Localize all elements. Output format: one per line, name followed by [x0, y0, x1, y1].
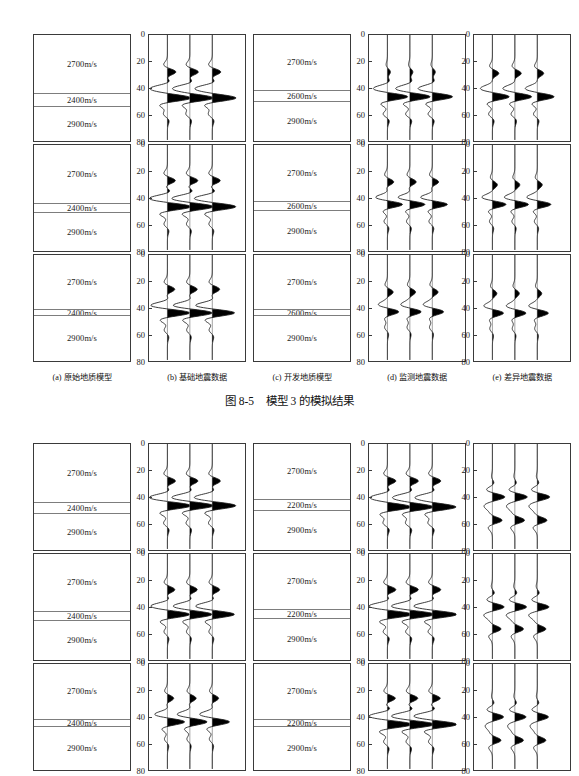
y-axis-tick-label: 20 [354, 167, 365, 176]
y-axis-tick-mark [368, 281, 372, 282]
trace-wiggle-line [172, 145, 213, 250]
y-axis-tick-mark [148, 690, 152, 691]
y-axis-tick-label: 20 [134, 167, 145, 176]
subcaption-row: (a) 原始地质模型(b) 基础地震数据(c) 开发地质模型(d) 监测地震数据… [0, 371, 579, 385]
velocity-label: 2900m/s [67, 744, 97, 753]
trace-positive-fill [167, 177, 190, 237]
y-axis-tick-label: 60 [459, 520, 470, 529]
y-axis-tick-label: 20 [134, 277, 145, 286]
y-axis-tick-mark [473, 171, 477, 172]
y-axis-tick-mark [368, 580, 372, 581]
y-axis-tick-label: 40 [354, 603, 365, 612]
lower-layer: 2900m/s [254, 316, 350, 361]
trace-wiggle-line [480, 35, 509, 140]
lower-layer: 2900m/s [34, 621, 130, 660]
subcaption-b: (b) 基础地震数据 [136, 371, 258, 385]
wiggle-trace-group [474, 444, 569, 549]
y-axis-tick-mark [473, 744, 477, 745]
y-axis-tick-mark [148, 580, 152, 581]
trace-positive-fill [432, 586, 456, 646]
y-axis-tick-mark [368, 335, 372, 336]
velocity-label: 2200m/s [287, 719, 317, 726]
trace-wiggle-line [172, 444, 213, 549]
reservoir-layer: 2600m/s [254, 201, 350, 211]
velocity-model-panel-group-top-r1-a: 2700m/s2400m/s2900m/s [33, 34, 131, 142]
y-axis-tick-mark [148, 607, 152, 608]
trace-wiggle-line [401, 255, 421, 360]
velocity-label: 2900m/s [67, 528, 97, 537]
y-axis-tick-label: 60 [134, 221, 145, 230]
trace-wiggle-line [391, 664, 433, 769]
y-axis-tick-label: 20 [354, 57, 365, 66]
upper-layer: 2700m/s [34, 255, 130, 309]
y-axis-tick-label: 0 [354, 549, 365, 558]
wiggle-trace-group [149, 35, 244, 140]
seismic-panel-group-bottom-r2-e: 020406080 [459, 553, 571, 661]
velocity-label: 2900m/s [67, 228, 97, 237]
y-axis-tick-label: 60 [354, 221, 365, 230]
wiggle-trace-group [149, 554, 244, 659]
reservoir-layer: 2200m/s [254, 719, 350, 726]
trace-wiggle-line [378, 255, 398, 360]
y-axis-tick-mark [148, 198, 152, 199]
trace-wiggle-line [393, 444, 434, 549]
seismic-panel-group-bottom-r2-d: 020406080 [354, 553, 466, 661]
y-axis-tick-label: 20 [459, 167, 470, 176]
trace-wiggle-line [194, 444, 235, 549]
lower-layer: 2900m/s [254, 211, 350, 251]
upper-layer: 2700m/s [34, 35, 130, 93]
y-axis-tick-mark [148, 61, 152, 62]
y-axis-tick-label: 20 [134, 576, 145, 585]
seismic-plot-area [368, 553, 466, 661]
subcaption-e: (e) 差异地震数据 [461, 371, 579, 385]
trace-wiggle-line [173, 554, 212, 659]
trace-wiggle-line [482, 145, 506, 250]
velocity-label: 2900m/s [287, 334, 317, 343]
lower-layer: 2900m/s [34, 727, 130, 770]
velocity-label: 2700m/s [67, 687, 97, 696]
velocity-label: 2900m/s [67, 334, 97, 343]
subcaption-c: (c) 开发地质模型 [241, 371, 363, 385]
y-axis-tick-label: 0 [354, 439, 365, 448]
trace-wiggle-line [369, 664, 411, 769]
seismic-panel-group-top-r2-e: 020406080 [459, 144, 571, 252]
seismic-panel-group-top-r3-b: 020406080 [134, 254, 246, 362]
seismic-panel-group-top-r3-e: 020406080 [459, 254, 571, 362]
wiggle-trace-group [149, 145, 244, 250]
y-axis-tick-label: 0 [134, 250, 145, 259]
y-axis-tick-label: 40 [459, 84, 470, 93]
y-axis-tick-label: 60 [459, 331, 470, 340]
wiggle-trace-group [369, 35, 464, 140]
y-axis-tick-label: 20 [354, 277, 365, 286]
y-axis-tick-label: 60 [354, 630, 365, 639]
trace-positive-fill [432, 68, 452, 127]
trace-wiggle-line [369, 554, 411, 659]
trace-wiggle-line [484, 255, 504, 360]
trace-wiggle-line [196, 255, 235, 360]
y-axis-tick-label: 80 [134, 358, 145, 367]
y-axis-tick-mark [148, 744, 152, 745]
trace-wiggle-line [396, 35, 430, 140]
reservoir-layer: 2400m/s [34, 611, 130, 621]
lower-layer: 2900m/s [254, 102, 350, 141]
y-axis-tick-label: 40 [134, 194, 145, 203]
seismic-plot-area [368, 144, 466, 252]
trace-positive-fill [387, 477, 411, 536]
trace-wiggle-line [173, 255, 212, 360]
y-axis-tick-label: 0 [459, 140, 470, 149]
wiggle-trace-group [369, 554, 464, 659]
trace-wiggle-line [149, 444, 190, 549]
y-axis-tick-label: 0 [459, 250, 470, 259]
velocity-label: 2900m/s [287, 526, 317, 535]
velocity-label: 2700m/s [287, 577, 317, 586]
trace-wiggle-line [373, 35, 407, 140]
y-axis-tick-mark [473, 690, 477, 691]
velocity-label: 2900m/s [287, 117, 317, 126]
upper-layer: 2700m/s [34, 444, 130, 502]
velocity-label: 2600m/s [287, 309, 317, 316]
trace-wiggle-line [527, 145, 551, 250]
y-axis-tick-label: 60 [134, 630, 145, 639]
velocity-label: 2900m/s [67, 120, 97, 129]
velocity-label: 2700m/s [287, 58, 317, 67]
velocity-label: 2700m/s [67, 469, 97, 478]
